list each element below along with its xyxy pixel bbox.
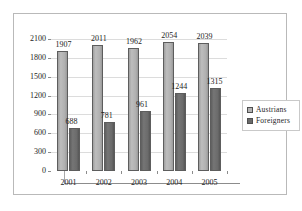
legend-label-foreigners: Foreigners <box>256 117 290 125</box>
x-tick-label-2005: 2005 <box>192 178 227 187</box>
x-tick-mark <box>192 171 193 174</box>
data-label-austrians-2004: 2054 <box>151 31 177 40</box>
legend-swatch-foreigners-icon <box>247 118 253 124</box>
y-tick-label: 900 <box>17 110 46 118</box>
x-tick-mark <box>86 171 87 174</box>
x-tick-mark <box>227 171 228 174</box>
y-tick-mark <box>48 77 51 78</box>
bar-foreigners-2005 <box>210 88 221 171</box>
y-tick-mark <box>48 58 51 59</box>
bar-austrians-2001 <box>57 51 68 171</box>
x-tick-label-2001: 2001 <box>51 178 86 187</box>
bar-foreigners-2001 <box>69 128 80 171</box>
bar-austrians-2005 <box>198 43 209 171</box>
y-tick-mark <box>48 133 51 134</box>
x-tick-mark <box>121 171 122 174</box>
data-label-austrians-2005: 2039 <box>186 32 212 41</box>
data-label-foreigners-2004: 1244 <box>171 82 197 91</box>
data-label-austrians-2001: 1907 <box>46 40 72 49</box>
legend-swatch-austrians-icon <box>247 107 253 113</box>
bar-foreigners-2004 <box>175 93 186 171</box>
data-label-austrians-2002: 2011 <box>81 34 107 43</box>
y-tick-label: 0 <box>17 167 46 175</box>
data-label-austrians-2003: 1962 <box>116 37 142 46</box>
data-label-foreigners-2003: 961 <box>136 100 162 109</box>
bar-foreigners-2003 <box>140 111 151 171</box>
data-label-foreigners-2005: 1315 <box>206 77 232 86</box>
y-tick-label: 300 <box>17 148 46 156</box>
legend-entry-foreigners[interactable]: Foreigners <box>247 116 296 126</box>
y-tick-mark <box>48 114 51 115</box>
x-tick-mark <box>157 171 158 174</box>
chart-legend: Austrians Foreigners <box>242 100 300 131</box>
data-label-foreigners-2002: 781 <box>101 111 127 120</box>
y-tick-label: 2100 <box>17 35 46 43</box>
x-tick-label-2002: 2002 <box>86 178 121 187</box>
x-tick-label-2003: 2003 <box>121 178 156 187</box>
y-tick-label: 600 <box>17 129 46 137</box>
chart-outer-frame: 03006009001200150018002100 2001200220032… <box>13 13 287 195</box>
y-tick-label: 1200 <box>17 92 46 100</box>
bar-austrians-2004 <box>163 42 174 171</box>
bar-austrians-2002 <box>92 45 103 171</box>
y-tick-mark <box>48 152 51 153</box>
data-label-foreigners-2001: 688 <box>66 117 92 126</box>
bar-foreigners-2002 <box>104 122 115 171</box>
legend-label-austrians: Austrians <box>256 106 287 114</box>
y-tick-mark <box>48 171 51 172</box>
y-tick-label: 1500 <box>17 73 46 81</box>
bar-austrians-2003 <box>128 48 139 171</box>
y-tick-label: 1800 <box>17 54 46 62</box>
y-tick-mark <box>48 96 51 97</box>
chart-figure: 03006009001200150018002100 2001200220032… <box>0 0 302 211</box>
legend-entry-austrians[interactable]: Austrians <box>247 105 296 115</box>
x-tick-label-2004: 2004 <box>157 178 192 187</box>
